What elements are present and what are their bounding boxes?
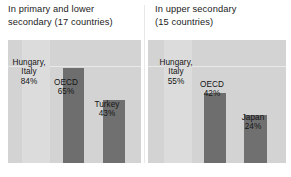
chart-panel-primary-lower-secondary: In primary and lower secondary (17 count… bbox=[0, 0, 144, 177]
bar-label-hungary-italy-left: Hungary, Italy 84% bbox=[11, 58, 47, 86]
bar-label-japan-right: Japan 24% bbox=[232, 113, 274, 132]
panel-title-upper-secondary: In upper secondary (15 countries) bbox=[155, 3, 285, 28]
bar-label-turkey-left: Turkey 43% bbox=[85, 100, 129, 119]
bar-label-hungary-italy-right: Hungary, Italy 55% bbox=[158, 58, 194, 86]
bar-label-oecd-right: OECD 42% bbox=[192, 80, 232, 99]
panel-title-primary-lower-secondary: In primary and lower secondary (17 count… bbox=[8, 3, 140, 28]
bar-label-oecd-left: OECD 65% bbox=[46, 78, 86, 97]
panel-divider bbox=[144, 5, 145, 163]
chart-panel-upper-secondary: In upper secondary (15 countries) Hungar… bbox=[145, 0, 291, 177]
chart-container: In primary and lower secondary (17 count… bbox=[0, 0, 291, 177]
bar-oecd-right bbox=[204, 93, 226, 163]
